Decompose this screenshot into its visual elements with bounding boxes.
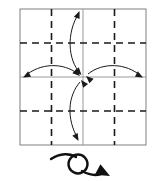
turn-over-loop [69,155,88,174]
turn-over-arrowhead [95,164,110,176]
turn-over-symbol-group [51,154,110,176]
origami-diagram: Origami step: collapse corners to center… [0,0,157,181]
origami-svg-canvas: Origami step: collapse corners to center… [0,0,157,181]
